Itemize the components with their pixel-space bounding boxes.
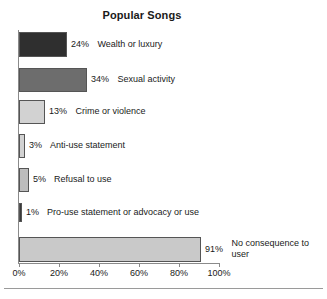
- footer-divider: [4, 288, 323, 289]
- x-axis-tick-label: 0%: [12, 268, 25, 278]
- bar: [19, 134, 25, 158]
- bar-value-label: 91%: [205, 244, 223, 254]
- bar: [19, 68, 87, 92]
- bar-category-label: Refusal to use: [54, 174, 112, 184]
- x-axis-line: [18, 263, 219, 264]
- x-axis-tick-label: 80%: [170, 268, 188, 278]
- bar-value-label: 1%: [26, 207, 39, 217]
- bar-category-label: No consequence to user: [232, 238, 316, 260]
- bar-value-label: 34%: [91, 74, 109, 84]
- bar: [19, 32, 67, 57]
- bar-category-label: Sexual activity: [118, 74, 176, 84]
- chart-figure: Popular Songs 0%20%40%60%80%100%24%Wealt…: [0, 0, 327, 299]
- x-axis-tick: [139, 263, 140, 267]
- x-axis-tick-label: 40%: [90, 268, 108, 278]
- bar-value-label: 5%: [33, 174, 46, 184]
- x-axis-tick: [219, 263, 220, 267]
- x-axis-tick: [179, 263, 180, 267]
- bar-value-label: 24%: [71, 39, 89, 49]
- x-axis-tick: [59, 263, 60, 267]
- bar-category-label: Anti-use statement: [50, 140, 125, 150]
- plot-area: 0%20%40%60%80%100%24%Wealth or luxury34%…: [0, 0, 327, 299]
- x-axis-tick-label: 60%: [130, 268, 148, 278]
- bar: [19, 237, 201, 262]
- bar: [19, 168, 29, 192]
- x-axis-tick-label: 100%: [207, 268, 230, 278]
- bar-category-label: Crime or violence: [76, 106, 146, 116]
- x-axis-tick: [19, 263, 20, 267]
- bar: [19, 100, 45, 124]
- bar-value-label: 3%: [29, 140, 42, 150]
- bar-value-label: 13%: [49, 106, 67, 116]
- x-axis-tick: [99, 263, 100, 267]
- bar-category-label: Wealth or luxury: [98, 39, 163, 49]
- bar: [19, 203, 22, 222]
- bar-category-label: Pro-use statement or advocacy or use: [47, 207, 199, 217]
- x-axis-tick-label: 20%: [50, 268, 68, 278]
